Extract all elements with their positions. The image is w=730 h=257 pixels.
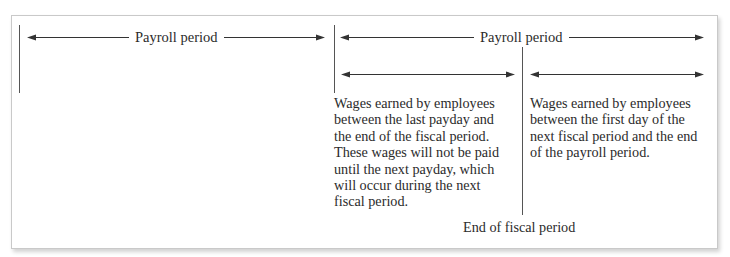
fiscal-period-end-line [522, 47, 523, 215]
double-headed-arrow-icon [530, 70, 704, 79]
description-line: fiscal period. [334, 193, 499, 209]
description-line: Wages earned by employees [334, 95, 499, 111]
description-line: the end of the fiscal period. [334, 128, 499, 144]
description-line: until the next payday, which [334, 161, 499, 177]
description-line: These wages will not be paid [334, 144, 499, 160]
description-line: of the payroll period. [530, 144, 697, 160]
accrued-wages-description: Wages earned by employees between the la… [334, 95, 499, 210]
description-line: between the first day of the [530, 111, 697, 127]
description-line: will occur during the next [334, 177, 499, 193]
middle-payday-boundary-line [334, 25, 335, 93]
description-line: next fiscal period and the end [530, 128, 697, 144]
description-line: between the last payday and [334, 111, 499, 127]
accrued-wages-arrow [341, 70, 515, 79]
right-payroll-period-label: Payroll period [474, 29, 569, 45]
left-payroll-period-label: Payroll period [129, 29, 224, 45]
double-headed-arrow-icon [341, 70, 515, 79]
end-of-fiscal-period-label: End of fiscal period [463, 219, 575, 235]
next-period-wages-description: Wages earned by employees between the fi… [530, 95, 697, 161]
left-payday-boundary-line [19, 25, 20, 93]
description-line: Wages earned by employees [530, 95, 697, 111]
next-period-wages-arrow [530, 70, 704, 79]
